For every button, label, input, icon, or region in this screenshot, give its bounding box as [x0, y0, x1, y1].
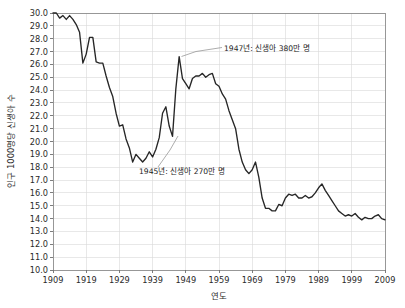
y-tick-label: 28.0: [30, 34, 48, 44]
y-axis-title: 인구 1000명당 신생아 수: [6, 94, 16, 187]
x-axis-ticks: 1909191919291939194919591969197919891999…: [43, 270, 396, 285]
y-tick-label: 23.0: [30, 98, 48, 108]
x-tick-label: 1939: [142, 275, 163, 285]
y-tick-label: 24.0: [30, 85, 48, 95]
x-tick-label: 1959: [209, 275, 230, 285]
x-tick-label: 1929: [109, 275, 130, 285]
y-tick-label: 27.0: [30, 47, 48, 57]
annotation-1945-leader-line: [158, 136, 178, 167]
x-tick-label: 1949: [175, 275, 196, 285]
y-tick-label: 30.0: [30, 8, 48, 18]
x-tick-label: 1919: [76, 275, 97, 285]
y-tick-label: 22.0: [30, 111, 48, 121]
y-tick-label: 16.0: [30, 188, 48, 198]
y-axis-ticks: 10.011.012.013.014.015.016.017.018.019.0…: [30, 8, 53, 275]
x-tick-label: 2009: [375, 275, 396, 285]
x-tick-label: 1969: [242, 275, 263, 285]
y-tick-label: 11.0: [30, 252, 48, 262]
y-tick-label: 20.0: [30, 137, 48, 147]
annotation-1947-label: 1947년: 신생아 380만 명: [224, 43, 310, 53]
annotation-1945-label: 1945년: 신생아 270만 명: [139, 166, 225, 176]
x-axis-title: 연도: [211, 291, 227, 301]
y-tick-label: 13.0: [30, 226, 48, 236]
y-tick-label: 25.0: [30, 72, 48, 82]
x-tick-label: 1989: [308, 275, 329, 285]
y-tick-label: 29.0: [30, 21, 48, 31]
x-tick-label: 1909: [43, 275, 64, 285]
x-tick-label: 1999: [341, 275, 362, 285]
y-tick-label: 10.0: [30, 265, 48, 275]
y-tick-label: 14.0: [30, 214, 48, 224]
y-tick-label: 18.0: [30, 162, 48, 172]
birth-rate-line-chart: 10.011.012.013.014.015.016.017.018.019.0…: [0, 0, 405, 308]
chart-canvas: 10.011.012.013.014.015.016.017.018.019.0…: [0, 0, 405, 308]
y-tick-label: 19.0: [30, 149, 48, 159]
y-tick-label: 26.0: [30, 59, 48, 69]
annotation-1947-leader-line: [182, 48, 223, 57]
y-tick-label: 12.0: [30, 239, 48, 249]
y-tick-label: 17.0: [30, 175, 48, 185]
y-tick-label: 15.0: [30, 201, 48, 211]
y-tick-label: 21.0: [30, 124, 48, 134]
x-tick-label: 1979: [275, 275, 296, 285]
